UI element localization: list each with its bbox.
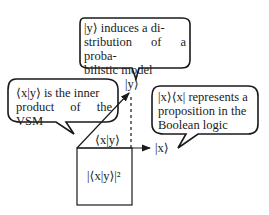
text-line: stribution of a proba-	[84, 35, 186, 63]
text-line: |x⟩⟨x| represents a	[158, 90, 254, 104]
text-line: product of the VSM	[16, 100, 112, 128]
y-vector-label: |y⟩	[125, 77, 139, 91]
inner-product-label: ⟨x|y⟩	[95, 133, 120, 147]
x-vector-label: |x⟩	[155, 141, 169, 155]
text-line: ⟨x|y⟩ is the inner	[16, 86, 112, 100]
bubble-top-text: |y⟩ induces a di- stribution of a proba-…	[84, 21, 186, 77]
square-area-label: |⟨x|y⟩|²	[87, 169, 121, 183]
bubble-right-text: |x⟩⟨x| represents a proposition in the B…	[158, 90, 254, 132]
text-line: proposition in the	[158, 104, 254, 118]
bubble-left-text: ⟨x|y⟩ is the inner product of the VSM	[16, 86, 112, 128]
text-line: bilistic model	[84, 63, 186, 77]
text-line: Boolean logic	[158, 118, 254, 132]
text-line: |y⟩ induces a di-	[84, 21, 186, 35]
